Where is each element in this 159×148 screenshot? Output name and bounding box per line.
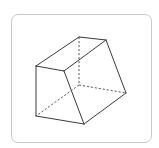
edge-BF	[64, 40, 106, 71]
edge-HG	[79, 85, 126, 93]
edge-EF	[79, 37, 106, 40]
edge-AB	[36, 66, 64, 71]
edge-CD	[36, 116, 84, 124]
edge-CG	[84, 93, 126, 124]
hidden-edges	[36, 37, 126, 116]
edge-BC	[64, 71, 84, 124]
prism-figure	[0, 0, 159, 148]
edge-FG	[106, 40, 126, 93]
visible-edges	[36, 37, 126, 124]
edge-HD	[36, 85, 79, 116]
edge-AE	[36, 37, 79, 66]
